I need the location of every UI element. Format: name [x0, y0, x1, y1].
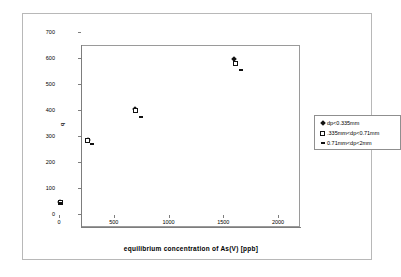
legend-label: .335mm<dp<0.71mm — [327, 130, 379, 137]
y-tick-label: 300 — [37, 133, 55, 139]
y-tick-mark — [78, 32, 81, 33]
y-tick-mark — [78, 188, 81, 189]
x-tick-mark — [223, 215, 224, 218]
legend-item: dp<0.335mm — [318, 118, 398, 128]
y-tick-label: 200 — [37, 159, 55, 165]
data-point — [139, 116, 143, 118]
y-tick-mark — [78, 136, 81, 137]
chart-frame: 0100200300400500600700 0500100015002000 … — [22, 13, 372, 260]
y-tick-mark — [78, 214, 81, 215]
x-tick-label: 1500 — [211, 219, 235, 225]
chart-legend: dp<0.335mm.335mm<dp<0.71mm0.71mm<dp<2mm — [314, 115, 401, 150]
y-tick-label: 0 — [37, 211, 55, 217]
x-tick-label: 1000 — [157, 219, 181, 225]
x-tick-label: 0 — [47, 219, 71, 225]
x-tick-mark — [278, 215, 279, 218]
legend-marker-icon — [318, 119, 327, 128]
y-tick-mark — [78, 84, 81, 85]
y-tick-mark — [78, 110, 81, 111]
y-tick-mark — [78, 162, 81, 163]
data-point — [90, 143, 94, 145]
y-tick-label: 400 — [37, 107, 55, 113]
x-tick-label: 500 — [102, 219, 126, 225]
x-tick-mark — [114, 215, 115, 218]
data-point — [133, 108, 138, 113]
data-point — [233, 61, 238, 66]
y-axis-title: q — [60, 112, 65, 138]
legend-item: 0.71mm<dp<2mm — [318, 138, 398, 148]
legend-item: .335mm<dp<0.71mm — [318, 128, 398, 138]
x-axis-title: equilibrium concentration of As(V) [ppb] — [81, 245, 301, 252]
y-axis-line — [81, 45, 82, 228]
y-tick-mark — [78, 58, 81, 59]
y-tick-label: 600 — [37, 55, 55, 61]
data-point — [239, 69, 243, 71]
x-axis-line — [81, 227, 301, 228]
y-tick-label: 500 — [37, 81, 55, 87]
legend-marker-icon — [318, 129, 327, 138]
x-tick-mark — [59, 215, 60, 218]
data-point — [59, 202, 63, 204]
x-tick-mark — [169, 215, 170, 218]
plot-area — [81, 45, 300, 227]
legend-label: 0.71mm<dp<2mm — [327, 140, 372, 147]
y-tick-label: 100 — [37, 185, 55, 191]
legend-label: dp<0.335mm — [327, 120, 359, 127]
y-tick-label: 700 — [37, 29, 55, 35]
x-tick-label: 2000 — [266, 219, 290, 225]
legend-marker-icon — [318, 139, 327, 148]
